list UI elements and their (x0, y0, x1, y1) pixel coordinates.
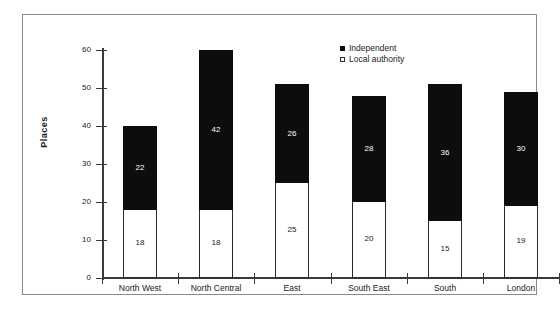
bar-stack: 3019 (504, 92, 538, 278)
x-axis-category-label: East (254, 283, 330, 293)
bar-value-label: 26 (288, 130, 297, 138)
legend-label-local-authority: Local authority (349, 54, 404, 65)
bar-segment-independent: 42 (199, 50, 233, 210)
bar-value-label: 15 (441, 245, 450, 253)
y-tick-label: 20 (65, 198, 91, 206)
y-tick (96, 164, 107, 165)
chart-frame: Places 6050403020100 2218North West4218N… (22, 14, 537, 295)
y-tick-label-text: 50 (65, 84, 91, 92)
y-tick-label: 10 (65, 236, 91, 244)
filled-square-icon (340, 46, 345, 51)
bar-segment-independent: 26 (275, 84, 309, 183)
bar-segment-local-authority: 18 (199, 210, 233, 278)
y-tick (96, 50, 107, 51)
bar-value-label: 18 (136, 239, 145, 247)
bar-value-label: 19 (517, 237, 526, 245)
bar-value-label: 30 (517, 145, 526, 153)
bar-stack: 2625 (275, 84, 309, 278)
bar-segment-local-authority: 20 (352, 202, 386, 278)
chart-figure: Places 6050403020100 2218North West4218N… (0, 0, 560, 313)
bar-value-label: 18 (212, 239, 221, 247)
y-tick-label: 0 (65, 274, 91, 282)
y-tick-label: 30 (65, 160, 91, 168)
x-axis-category-label: London (483, 283, 559, 293)
bar-value-label: 36 (441, 149, 450, 157)
bar-value-label: 22 (136, 164, 145, 172)
bar-value-label: 28 (365, 145, 374, 153)
y-tick-label-text: 0 (65, 274, 91, 282)
x-axis-category-label: North Central (178, 283, 254, 293)
bar-value-label: 20 (365, 235, 374, 243)
chart-legend: Independent Local authority (340, 43, 404, 65)
x-axis-category-label: South East (331, 283, 407, 293)
y-tick-label-text: 60 (65, 46, 91, 54)
bar-segment-local-authority: 25 (275, 183, 309, 278)
open-square-icon (340, 57, 345, 62)
y-tick-label-text: 20 (65, 198, 91, 206)
y-tick (96, 202, 107, 203)
bar-segment-local-authority: 15 (428, 221, 462, 278)
y-tick-label-text: 30 (65, 160, 91, 168)
bar-segment-independent: 22 (123, 126, 157, 210)
bar-value-label: 25 (288, 226, 297, 234)
y-tick-label-text: 10 (65, 236, 91, 244)
y-tick (96, 126, 107, 127)
x-axis-category-label: South (407, 283, 483, 293)
y-tick (96, 240, 107, 241)
y-tick-label: 40 (65, 122, 91, 130)
bar-stack: 2820 (352, 96, 386, 278)
y-tick-label-text: 40 (65, 122, 91, 130)
bar-segment-local-authority: 18 (123, 210, 157, 278)
y-tick (96, 88, 107, 89)
bar-value-label: 42 (212, 126, 221, 134)
y-tick-label: 50 (65, 84, 91, 92)
legend-label-independent: Independent (349, 43, 396, 54)
bar-stack: 3615 (428, 84, 462, 278)
bar-segment-independent: 36 (428, 84, 462, 221)
bar-stack: 2218 (123, 126, 157, 278)
y-tick-label: 60 (65, 46, 91, 54)
bar-segment-independent: 28 (352, 96, 386, 202)
bar-segment-independent: 30 (504, 92, 538, 206)
bar-stack: 4218 (199, 50, 233, 278)
legend-item-independent: Independent (340, 43, 404, 54)
bar-segment-local-authority: 19 (504, 206, 538, 278)
legend-item-local-authority: Local authority (340, 54, 404, 65)
x-axis-category-label: North West (102, 283, 178, 293)
y-axis-title: Places (39, 97, 49, 167)
